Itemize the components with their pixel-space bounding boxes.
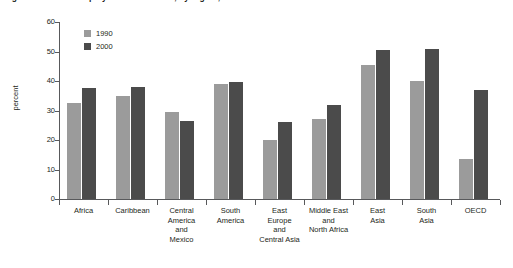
bar-1990: [410, 81, 424, 199]
x-tick-mark: [157, 200, 158, 205]
bar-2000: [278, 122, 292, 199]
bar-2000: [327, 105, 341, 199]
bar-group: [108, 22, 157, 199]
bar-group: [255, 22, 304, 199]
figure-caption-clipped: Figure 1 Share of employment in services…: [0, 0, 513, 6]
bar-2000: [131, 87, 145, 199]
y-tick-label: 0: [51, 194, 55, 203]
y-tick-label: 10: [47, 165, 55, 174]
x-tick-mark: [451, 200, 452, 205]
y-tick-label: 30: [47, 106, 55, 115]
x-category-label: OECD: [445, 206, 506, 216]
y-tick-label: 60: [47, 17, 55, 26]
x-tick-mark: [59, 200, 60, 205]
figure-container: Figure 1 Share of employment in services…: [0, 0, 513, 268]
bar-group: [206, 22, 255, 199]
bar-group: [402, 22, 451, 199]
bar-1990: [459, 159, 473, 199]
x-axis-line: [59, 199, 500, 200]
bar-2000: [425, 49, 439, 199]
x-tick-mark: [500, 200, 501, 205]
bar-1990: [214, 84, 228, 199]
x-tick-mark: [108, 200, 109, 205]
bar-2000: [180, 121, 194, 199]
x-tick-mark: [206, 200, 207, 205]
bar-1990: [263, 140, 277, 199]
bar-2000: [82, 88, 96, 199]
bar-2000: [376, 50, 390, 199]
bar-group: [451, 22, 500, 199]
x-tick-mark: [304, 200, 305, 205]
bar-1990: [116, 96, 130, 199]
bar-group: [157, 22, 206, 199]
y-axis-label: percent: [11, 91, 20, 111]
bar-group: [353, 22, 402, 199]
y-tick-label: 50: [47, 47, 55, 56]
y-tick-label: 40: [47, 76, 55, 85]
x-tick-mark: [255, 200, 256, 205]
bar-1990: [361, 65, 375, 199]
bar-2000: [474, 90, 488, 199]
bar-2000: [229, 82, 243, 199]
bar-1990: [165, 112, 179, 199]
figure-caption-text: Figure 1 Share of employment in services…: [4, 0, 281, 2]
bar-group: [304, 22, 353, 199]
plot-area: 0102030405060: [59, 22, 500, 199]
x-tick-mark: [402, 200, 403, 205]
bar-1990: [67, 103, 81, 199]
y-tick-label: 20: [47, 135, 55, 144]
x-tick-mark: [353, 200, 354, 205]
bar-group: [59, 22, 108, 199]
bar-1990: [312, 119, 326, 199]
